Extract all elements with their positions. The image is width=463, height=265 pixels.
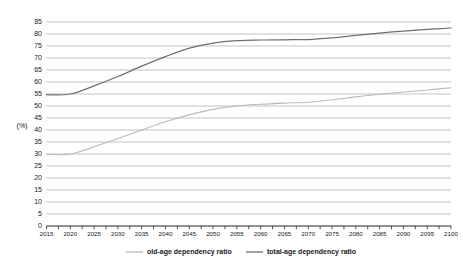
x-axis-tick-label: 2035 [135,230,149,237]
x-axis-tick-label: 2055 [230,230,244,237]
x-axis-tick-label: 2025 [87,230,101,237]
y-axis-tick-label: 10 [34,198,42,205]
y-axis-label: (%) [17,122,28,130]
chart-container: 0510152025303540455055606570758085 20152… [0,0,463,265]
y-axis-tick-labels: 0510152025303540455055606570758085 [34,18,42,229]
x-axis-tick-label: 2050 [206,230,220,237]
x-axis-tick-label: 2020 [63,230,77,237]
y-axis-tick-label: 50 [34,102,42,109]
y-axis-tick-label: 20 [34,174,42,181]
x-axis-tick-label: 2030 [111,230,125,237]
x-axis-tick-label: 2065 [278,230,292,237]
x-axis-tick-label: 2100 [444,230,458,237]
y-axis-tick-label: 80 [34,30,42,37]
y-axis-tick-label: 40 [34,126,42,133]
x-axis-tick-label: 2040 [159,230,173,237]
y-axis-tick-label: 25 [34,162,42,169]
x-axis-tick-label: 2085 [373,230,387,237]
legend-label-total-age: total-age dependency ratio [267,248,356,256]
y-axis-tick-label: 60 [34,78,42,85]
y-axis-tick-label: 75 [34,42,42,49]
legend-label-old-age: old-age dependency ratio [147,248,232,256]
y-axis-tick-label: 70 [34,54,42,61]
x-axis-tick-label: 2090 [397,230,411,237]
y-axis-tick-label: 55 [34,90,42,97]
data-series [47,28,452,155]
y-axis-tick-label: 85 [34,18,42,25]
gridlines [47,22,452,214]
series-line-total-age [47,28,452,95]
y-axis-tick-label: 30 [34,150,42,157]
x-axis-tick-label: 2045 [182,230,196,237]
chart-legend: old-age dependency ratiototal-age depend… [126,248,356,256]
y-axis-tick-label: 35 [34,138,42,145]
y-axis-tick-label: 45 [34,114,42,121]
y-axis-tick-label: 65 [34,66,42,73]
y-axis-tick-label: 15 [34,186,42,193]
x-axis-tick-labels: 2015202020252030203520402045205020552060… [40,230,459,237]
x-axis-tick-label: 2070 [301,230,315,237]
x-axis-tick-label: 2015 [40,230,54,237]
x-axis-tick-label: 2095 [420,230,434,237]
x-axis-tick-label: 2060 [254,230,268,237]
x-axis-tick-label: 2075 [325,230,339,237]
y-axis-tick-label: 5 [38,210,42,217]
dependency-ratio-line-chart: 0510152025303540455055606570758085 20152… [0,0,463,265]
y-axis-tick-label: 0 [38,222,42,229]
x-axis-tick-label: 2080 [349,230,363,237]
series-line-old-age [47,88,452,155]
